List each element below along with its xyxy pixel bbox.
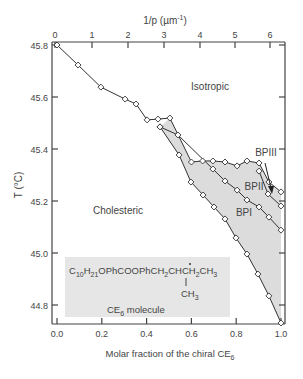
x-tick-label: 0.2 bbox=[96, 329, 109, 339]
chiral-center-dot bbox=[189, 263, 191, 265]
x-tick-label: 0.8 bbox=[230, 329, 243, 339]
top-axis-label: 1/p (µm-1) bbox=[143, 14, 187, 26]
y-axis-label: T (°C) bbox=[13, 172, 24, 199]
top-tick-label: 1 bbox=[89, 30, 94, 40]
y-tick-label: 44.8 bbox=[30, 301, 48, 311]
phase-diagram-chart: 0.00.20.40.60.81.045.845.645.445.245.044… bbox=[0, 0, 303, 379]
data-point bbox=[133, 101, 139, 107]
x-tick-label: 1.0 bbox=[275, 329, 288, 339]
data-point bbox=[122, 96, 128, 102]
data-point bbox=[155, 116, 161, 122]
y-tick-label: 45.0 bbox=[30, 249, 48, 259]
top-tick-label: 0 bbox=[52, 30, 57, 40]
y-tick-label: 45.6 bbox=[30, 93, 48, 103]
top-tick-label: 3 bbox=[161, 30, 166, 40]
y-tick-label: 45.2 bbox=[30, 197, 48, 207]
data-point bbox=[278, 320, 284, 326]
x-axis-label: Molar fraction of the chiral CE6 bbox=[105, 348, 234, 361]
cholesteric-label: Cholesteric bbox=[93, 205, 143, 216]
top-tick-label: 4 bbox=[197, 30, 202, 40]
data-point bbox=[144, 117, 150, 123]
x-tick-label: 0.4 bbox=[140, 329, 153, 339]
bpii-label: BPII bbox=[245, 181, 264, 192]
top-tick-label: 6 bbox=[267, 30, 272, 40]
y-tick-label: 45.8 bbox=[30, 41, 48, 51]
x-tick-label: 0.6 bbox=[185, 329, 198, 339]
bpi-label: BPI bbox=[236, 207, 252, 218]
x-tick-label: 0.0 bbox=[51, 329, 64, 339]
top-tick-label: 2 bbox=[125, 30, 130, 40]
top-tick-label: 5 bbox=[232, 30, 237, 40]
bpiii-label: BPIII bbox=[255, 147, 277, 158]
y-tick-label: 45.4 bbox=[30, 145, 48, 155]
isotropic-label: Isotropic bbox=[191, 81, 229, 92]
